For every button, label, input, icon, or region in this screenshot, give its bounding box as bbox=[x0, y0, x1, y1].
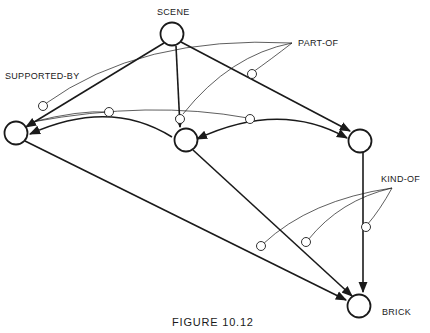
edge-middle-brick bbox=[193, 150, 352, 296]
kind-of-marker bbox=[362, 223, 371, 232]
supported-by-marker bbox=[246, 115, 255, 124]
node-left bbox=[5, 122, 28, 145]
kind-of-pointer-left bbox=[263, 188, 392, 244]
node-brick bbox=[348, 295, 371, 318]
part-of-marker bbox=[176, 115, 185, 124]
semantic-network-diagram bbox=[0, 0, 430, 333]
supported-by-pointer-right bbox=[32, 110, 248, 122]
node-right bbox=[349, 130, 372, 153]
part-of-marker bbox=[248, 70, 257, 79]
node-label-brick: BRICK bbox=[382, 307, 411, 317]
part-of-marker bbox=[39, 102, 48, 111]
part-of-pointer-right bbox=[253, 43, 292, 72]
kind-of-pointer-middle bbox=[308, 188, 392, 240]
part-of-pointer-middle bbox=[183, 43, 292, 114]
kind-of-pointer-right bbox=[367, 188, 392, 225]
edge-left-brick bbox=[25, 141, 346, 300]
edge-scene-right bbox=[181, 42, 350, 131]
relation-label-kind-of: KIND-OF bbox=[381, 174, 420, 184]
edge-middle-right bbox=[197, 119, 347, 139]
node-scene bbox=[161, 23, 184, 46]
kind-of-marker bbox=[257, 242, 266, 251]
relation-label-supported-by: SUPPORTED-BY bbox=[5, 71, 79, 81]
kind-of-marker bbox=[302, 238, 311, 247]
node-label-scene: SCENE bbox=[157, 7, 190, 17]
relation-label-part-of: PART-OF bbox=[298, 38, 338, 48]
supported-by-marker bbox=[105, 108, 114, 117]
edge-scene-left bbox=[26, 43, 164, 127]
node-middle bbox=[175, 129, 198, 152]
edge-middle-left bbox=[30, 117, 172, 137]
figure-caption: FIGURE 10.12 bbox=[172, 316, 254, 328]
